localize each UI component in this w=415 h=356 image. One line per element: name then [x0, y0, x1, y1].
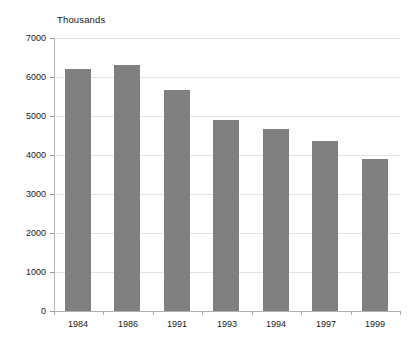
x-tick-mark-7 [400, 311, 401, 315]
x-tick-mark-3 [202, 311, 203, 315]
x-axis-label-1984: 1984 [68, 319, 88, 329]
y-axis-label-3000: 3000 [2, 189, 46, 199]
x-axis-label-1991: 1991 [167, 319, 187, 329]
x-axis-label-1986: 1986 [118, 319, 138, 329]
x-axis-label-1993: 1993 [217, 319, 237, 329]
x-axis-label-1999: 1999 [365, 319, 385, 329]
y-axis-label-7000: 7000 [2, 33, 46, 43]
bar-chart: Thousands 7000 6000 5000 4000 3000 2000 … [0, 0, 415, 356]
bar-1991[interactable] [164, 90, 190, 311]
x-tick-mark-6 [351, 311, 352, 315]
bar-1993[interactable] [213, 120, 239, 311]
y-axis-label-6000: 6000 [2, 72, 46, 82]
y-axis-label-5000: 5000 [2, 111, 46, 121]
x-axis-label-1997: 1997 [316, 319, 336, 329]
x-axis-line [54, 311, 400, 312]
y-axis-labels: 7000 6000 5000 4000 3000 2000 1000 0 [0, 0, 46, 356]
bar-1994[interactable] [263, 129, 289, 311]
y-axis-label-0: 0 [2, 306, 46, 316]
x-tick-mark-4 [252, 311, 253, 315]
x-tick-mark-0 [54, 311, 55, 315]
x-axis-label-1994: 1994 [266, 319, 286, 329]
x-tick-mark-5 [301, 311, 302, 315]
bar-1986[interactable] [114, 65, 140, 311]
y-axis-label-4000: 4000 [2, 150, 46, 160]
bar-1999[interactable] [362, 159, 388, 311]
x-tick-mark-2 [153, 311, 154, 315]
y-axis-label-1000: 1000 [2, 267, 46, 277]
chart-title: Thousands [57, 14, 105, 25]
bar-1984[interactable] [65, 69, 91, 311]
x-tick-mark-1 [103, 311, 104, 315]
bar-1997[interactable] [312, 141, 338, 311]
y-axis-label-2000: 2000 [2, 228, 46, 238]
bars-layer [54, 38, 400, 311]
